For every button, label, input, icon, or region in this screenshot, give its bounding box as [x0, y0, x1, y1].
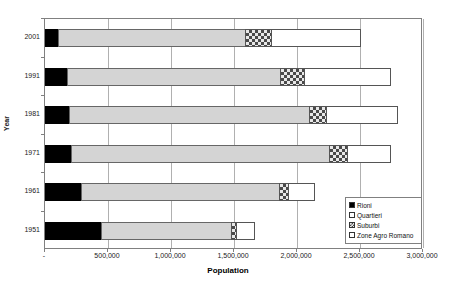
y-tick-label: 2001 — [0, 32, 40, 41]
y-tick-mark — [41, 211, 44, 212]
y-axis-labels: 200119911981197119611951 — [0, 18, 40, 249]
population-stacked-bar-chart: Year 200119911981197119611951 -500,0001,… — [0, 0, 456, 285]
y-tick-label: 1951 — [0, 225, 40, 234]
legend-label: Suburbi — [357, 222, 379, 229]
x-tick-label: 1,500,000 — [217, 252, 248, 259]
bar-segment-quartieri — [67, 68, 281, 86]
bar-segment-zone — [236, 222, 255, 240]
y-tick-mark — [41, 57, 44, 58]
bar-row — [45, 145, 391, 163]
bar-segment-rioni — [45, 106, 70, 124]
legend-item: Suburbi — [349, 220, 419, 230]
bar-segment-rioni — [45, 29, 59, 47]
x-tick-mark — [422, 249, 423, 252]
bar-segment-zone — [326, 106, 398, 124]
legend-item: Zone Agro Romano — [349, 230, 419, 240]
gridline-x — [423, 19, 424, 248]
legend-label: Quartieri — [357, 212, 382, 219]
bar-segment-suburbi — [245, 29, 272, 47]
x-tick-label: - — [43, 252, 45, 259]
bar-segment-rioni — [45, 145, 72, 163]
y-tick-label: 1981 — [0, 109, 40, 118]
bar-segment-quartieri — [58, 29, 246, 47]
legend-item: Quartieri — [349, 210, 419, 220]
legend-swatch-quartieri-icon — [349, 212, 355, 218]
x-tick-mark — [44, 249, 45, 252]
y-tick-label: 1971 — [0, 148, 40, 157]
gridline-x — [234, 19, 235, 248]
x-tick-mark — [233, 249, 234, 252]
bar-segment-rioni — [45, 183, 82, 201]
bar-segment-quartieri — [71, 145, 330, 163]
legend-label: Zone Agro Romano — [357, 232, 413, 239]
bar-row — [45, 222, 255, 240]
legend-item: Rioni — [349, 200, 419, 210]
bar-segment-rioni — [45, 222, 102, 240]
legend-swatch-suburbi-icon — [349, 222, 355, 228]
bar-segment-suburbi — [329, 145, 348, 163]
gridline-x — [171, 19, 172, 248]
bar-segment-suburbi — [309, 106, 327, 124]
bar-segment-quartieri — [69, 106, 310, 124]
bar-row — [45, 183, 315, 201]
bar-row — [45, 29, 361, 47]
gridline-x — [108, 19, 109, 248]
bar-row — [45, 68, 391, 86]
x-tick-label: 500,000 — [94, 252, 119, 259]
legend-label: Rioni — [357, 202, 372, 209]
x-tick-label: 2,500,000 — [343, 252, 374, 259]
bar-segment-quartieri — [81, 183, 280, 201]
bar-segment-zone — [288, 183, 315, 201]
x-tick-mark — [170, 249, 171, 252]
x-tick-label: 3,000,000 — [406, 252, 437, 259]
y-tick-label: 1961 — [0, 186, 40, 195]
x-axis-labels: -500,0001,000,0001,500,0002,000,0002,500… — [0, 252, 456, 266]
x-tick-label: 1,000,000 — [154, 252, 185, 259]
legend-swatch-rioni-icon — [349, 202, 355, 208]
gridline-x — [297, 19, 298, 248]
bar-row — [45, 106, 398, 124]
bar-segment-zone — [347, 145, 391, 163]
x-axis-title: Population — [0, 266, 456, 275]
y-tick-mark — [41, 172, 44, 173]
chart-legend: RioniQuartieriSuburbiZone Agro Romano — [345, 197, 422, 244]
y-tick-mark — [41, 134, 44, 135]
bar-segment-quartieri — [101, 222, 232, 240]
x-tick-mark — [359, 249, 360, 252]
bar-segment-suburbi — [280, 68, 305, 86]
y-tick-mark — [41, 18, 44, 19]
x-tick-mark — [296, 249, 297, 252]
bar-segment-zone — [304, 68, 391, 86]
x-tick-mark — [107, 249, 108, 252]
y-tick-mark — [41, 95, 44, 96]
y-tick-label: 1991 — [0, 71, 40, 80]
bar-segment-rioni — [45, 68, 68, 86]
legend-swatch-zone-icon — [349, 232, 355, 238]
x-tick-label: 2,000,000 — [280, 252, 311, 259]
bar-segment-zone — [271, 29, 362, 47]
